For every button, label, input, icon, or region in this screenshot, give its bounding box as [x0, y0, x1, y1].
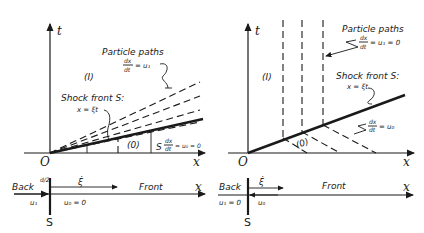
left-shock-leader	[104, 110, 110, 140]
right-t-label: t	[255, 24, 260, 38]
left-front-num: dx	[165, 137, 173, 144]
left-x-label: x	[193, 155, 200, 169]
left-xt-diagram: t x O (I) (0) Particle paths dx dt = u₁ …	[24, 24, 205, 169]
right-back-label: Back	[219, 182, 242, 192]
right-shock-leader	[368, 88, 374, 104]
right-strip-x-label: x	[403, 180, 410, 194]
right-x-label: x	[403, 155, 410, 169]
left-shock-s-label: S	[46, 216, 53, 229]
right-u-back: u₁ = 0	[219, 199, 242, 207]
right-xt-diagram: t x O (I) (0) Particle paths dx dt = u₁ …	[228, 20, 414, 169]
right-front-leader	[354, 124, 366, 134]
right-lab-strip: Back Front x ξ̇ u₁ = 0 u₀ S	[218, 176, 413, 229]
right-pp-rhs: = u₁ = 0	[370, 39, 401, 47]
right-front-label: Front	[322, 181, 346, 191]
left-front-den: dt	[165, 145, 172, 152]
left-shock-title: Shock front S:	[61, 93, 124, 103]
right-shock-title: Shock front S:	[336, 71, 399, 81]
left-t-label: t	[57, 24, 62, 38]
right-pp-num: dx	[360, 34, 368, 41]
right-shock-s-label: S	[244, 216, 251, 229]
left-u-front: u₀ = 0	[64, 199, 87, 207]
left-front-s: S	[156, 142, 162, 152]
left-shock-eq: x = ξt	[76, 106, 98, 114]
right-u-front: u₀	[258, 199, 265, 207]
left-front-rhs: = u₀ = 0	[175, 142, 201, 149]
left-shock-speed: ξ̇	[77, 176, 84, 187]
left-region-0: (0)	[127, 140, 140, 150]
right-shock-speed: ξ̇	[258, 176, 265, 187]
left-strip-x-label: x	[195, 180, 202, 194]
right-pp-leader	[326, 40, 358, 56]
left-origin-label: O	[40, 155, 50, 169]
right-front-den: dt	[369, 126, 376, 133]
left-lab-strip: Back d/2 Front x ξ̇ u₁ u₀ = 0 S	[12, 176, 205, 229]
left-region-1: (I)	[84, 72, 94, 82]
left-particle-paths-title: Particle paths	[102, 47, 164, 57]
right-front-rhs: = u₀	[379, 123, 395, 131]
left-front-label: Front	[139, 182, 163, 192]
right-region-0: (0)	[295, 136, 310, 150]
shock-diagram: t x O (I) (0) Particle paths dx dt = u₁ …	[0, 0, 424, 233]
right-region-1: (I)	[262, 72, 272, 82]
right-pp-den: dt	[360, 43, 367, 50]
right-shock-eq: x = ξt	[346, 83, 368, 91]
right-origin-label: O	[238, 155, 248, 169]
left-pp-leader	[160, 64, 168, 88]
left-pp-den: dt	[124, 66, 131, 73]
left-small-mark: d/2	[40, 176, 50, 183]
right-particle-paths-title: Particle paths	[342, 24, 404, 34]
right-front-num: dx	[369, 118, 377, 125]
left-pp-num: dx	[124, 57, 132, 64]
left-pp-rhs: = u₁	[135, 62, 151, 70]
left-back-label: Back	[12, 182, 35, 192]
left-u-back: u₁	[30, 199, 37, 207]
